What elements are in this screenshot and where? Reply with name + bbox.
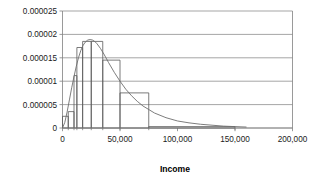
income-density-chart: 00.0000050.000010.0000150.000020.000025 … — [0, 0, 319, 178]
histogram-bar — [68, 112, 74, 128]
histogram-bar — [74, 76, 77, 128]
y-axis-tick-labels: 00.0000050.000010.0000150.000020.000025 — [23, 7, 58, 133]
x-tick-label: 200,000 — [278, 135, 308, 144]
x-tick-label: 0 — [60, 135, 65, 144]
histogram-bar — [83, 41, 92, 128]
x-tick-label: 150,000 — [220, 135, 250, 144]
y-tick-label: 0.000015 — [23, 54, 58, 63]
y-tick-label: 0.00002 — [27, 30, 57, 39]
y-tick-label: 0.000005 — [23, 101, 58, 110]
x-tick-label: 100,000 — [163, 135, 193, 144]
y-tick-label: 0.00001 — [27, 77, 57, 86]
histogram-bar — [91, 41, 103, 128]
x-tick-label: 50,000 — [107, 135, 132, 144]
plot-frame — [60, 11, 293, 128]
density-curve-path — [63, 40, 247, 128]
chart-canvas: 00.0000050.000010.0000150.000020.000025 … — [0, 0, 319, 178]
gridlines-group — [63, 11, 293, 128]
x-axis-title: Income — [160, 164, 190, 174]
y-tick-label: 0.000025 — [23, 7, 58, 16]
density-curve — [63, 40, 247, 128]
x-tick-marks — [63, 128, 293, 131]
histogram-bars — [63, 41, 293, 128]
histogram-bar — [103, 60, 120, 128]
y-tick-label: 0 — [52, 124, 57, 133]
x-axis-tick-labels: 050,000100,000150,000200,000 — [60, 135, 308, 144]
